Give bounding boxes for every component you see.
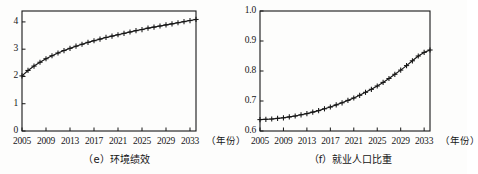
data-point-marker — [127, 29, 132, 34]
data-point-marker — [339, 100, 344, 105]
data-point-marker — [316, 108, 321, 113]
data-point-marker — [49, 53, 54, 58]
x-tick-label: 2033 — [175, 137, 205, 147]
data-point-marker — [181, 19, 186, 24]
data-point-marker — [427, 47, 432, 52]
data-point-marker — [293, 113, 298, 118]
plot-area-f — [234, 0, 467, 174]
data-point-marker — [322, 106, 327, 111]
data-point-marker — [334, 102, 339, 107]
data-line-e — [22, 19, 196, 75]
panel-caption-text-e: 环境绩效 — [110, 154, 150, 165]
chart-panel-f: 0.60.70.80.91.0 200520092013201720212025… — [234, 0, 467, 174]
data-point-marker — [73, 44, 78, 49]
y-tick-label: 0.7 — [245, 96, 256, 106]
data-point-marker — [298, 112, 303, 117]
data-point-marker — [67, 46, 72, 51]
x-tick-label: 2033 — [409, 137, 439, 147]
data-point-marker — [85, 40, 90, 45]
data-point-marker — [351, 95, 356, 100]
data-point-marker — [187, 18, 192, 23]
data-point-marker — [139, 27, 144, 32]
data-point-marker — [328, 104, 333, 109]
data-point-marker — [175, 20, 180, 25]
data-point-marker — [103, 35, 108, 40]
data-point-marker — [363, 90, 368, 95]
data-point-marker — [61, 48, 66, 53]
y-tick-label: 0 — [13, 126, 18, 136]
data-point-marker — [55, 50, 60, 55]
panel-caption-label-f: （f） — [309, 154, 333, 165]
data-point-marker — [375, 83, 380, 88]
data-point-marker — [287, 114, 292, 119]
y-tick-label: 0.9 — [245, 36, 256, 46]
plot-frame-f — [260, 11, 430, 131]
y-tick-label: 0.6 — [245, 126, 256, 136]
data-line-f — [260, 50, 430, 120]
plot-frame-e — [22, 11, 196, 131]
data-point-marker — [310, 110, 315, 115]
data-point-marker — [422, 50, 427, 55]
data-point-marker — [121, 31, 126, 36]
panel-caption-e: （e）环境绩效 — [0, 155, 233, 165]
data-point-marker — [169, 21, 174, 26]
data-point-marker — [115, 32, 120, 37]
plot-area-e — [0, 0, 233, 174]
data-point-marker — [257, 117, 262, 122]
data-point-marker — [109, 33, 114, 38]
panel-caption-label-e: （e） — [83, 154, 109, 165]
data-point-marker — [163, 22, 168, 27]
data-point-marker — [275, 116, 280, 121]
x-axis-unit-label-f: （年份） — [440, 137, 478, 147]
data-point-marker — [193, 17, 198, 22]
data-point-marker — [79, 42, 84, 47]
data-point-marker — [91, 38, 96, 43]
y-tick-label: 0.8 — [245, 66, 256, 76]
data-point-marker — [357, 93, 362, 98]
data-point-marker — [43, 56, 48, 61]
data-point-marker — [269, 116, 274, 121]
data-point-marker — [97, 36, 102, 41]
data-point-marker — [281, 115, 286, 120]
y-tick-label: 3 — [13, 44, 18, 54]
panel-caption-f: （f）就业人口比重 — [234, 155, 467, 165]
data-point-marker — [369, 87, 374, 92]
data-point-marker — [133, 28, 138, 33]
y-tick-label: 1.0 — [245, 6, 256, 16]
data-point-marker — [157, 23, 162, 28]
y-tick-label: 4 — [13, 17, 18, 27]
panel-caption-text-f: 就业人口比重 — [332, 154, 392, 165]
y-tick-label: 1 — [13, 99, 18, 109]
data-point-marker — [345, 98, 350, 103]
data-point-marker — [304, 111, 309, 116]
y-tick-label: 2 — [13, 71, 18, 81]
data-point-marker — [145, 26, 150, 31]
chart-panel-e: 01234 20052009201320172021202520292033 （… — [0, 0, 233, 174]
data-point-marker — [263, 117, 268, 122]
data-point-marker — [151, 24, 156, 29]
